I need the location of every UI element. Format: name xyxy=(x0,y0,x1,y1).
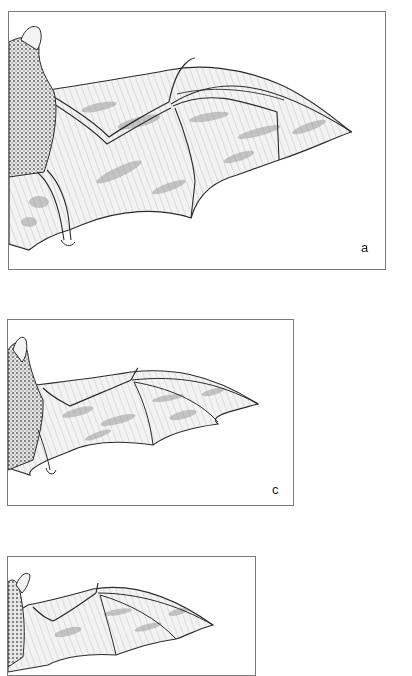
panel-label-c: c xyxy=(272,482,279,497)
panel-label-a: a xyxy=(361,240,368,255)
figure-panel-a: a xyxy=(8,11,386,270)
bat-wing-illustration-b xyxy=(8,557,256,676)
bat-wing-illustration-a xyxy=(9,12,386,270)
figure-panel-c: c xyxy=(7,319,294,506)
bat-wing-illustration-c xyxy=(8,320,294,506)
figure-panel-b xyxy=(7,556,256,676)
